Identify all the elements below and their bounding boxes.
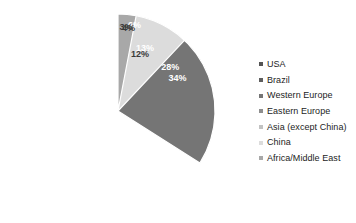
legend-item[interactable]: Eastern Europe bbox=[259, 103, 355, 119]
legend-item[interactable]: USA bbox=[259, 56, 355, 72]
legend-color-swatch-icon bbox=[259, 94, 263, 98]
pie-slice-value-label: 28% bbox=[161, 62, 179, 72]
legend-item[interactable]: Western Europe bbox=[259, 87, 355, 103]
pie-slice-value-label: 3% bbox=[119, 22, 132, 32]
legend-item-label: Brazil bbox=[267, 75, 290, 85]
legend-color-swatch-icon bbox=[259, 141, 263, 145]
legend-item-label: Africa/Middle East bbox=[267, 153, 340, 163]
legend-item-label: Eastern Europe bbox=[267, 106, 330, 116]
legend-color-swatch-icon bbox=[259, 156, 263, 160]
legend-color-swatch-icon bbox=[259, 78, 263, 82]
pie-slice-value-label: 34% bbox=[168, 73, 186, 83]
pie-slice-value-label: 12% bbox=[131, 49, 149, 59]
legend-color-swatch-icon bbox=[259, 109, 263, 113]
legend-color-swatch-icon bbox=[259, 62, 263, 66]
pie-slices-group bbox=[118, 14, 215, 163]
legend-item-label: China bbox=[267, 137, 291, 147]
legend-item-label: Asia (except China) bbox=[267, 122, 347, 132]
legend-item[interactable]: Brazil bbox=[259, 72, 355, 88]
pie-chart-figure: 13%28%34%6%4%12%3% USABrazilWestern Euro… bbox=[0, 0, 356, 223]
legend-item[interactable]: Asia (except China) bbox=[259, 119, 355, 135]
legend-item-label: USA bbox=[267, 59, 286, 69]
legend-item[interactable]: Africa/Middle East bbox=[259, 150, 355, 166]
legend-item-label: Western Europe bbox=[267, 90, 333, 100]
legend-item[interactable]: China bbox=[259, 134, 355, 150]
chart-legend: USABrazilWestern EuropeEastern EuropeAsi… bbox=[259, 56, 355, 166]
legend-color-swatch-icon bbox=[259, 125, 263, 129]
